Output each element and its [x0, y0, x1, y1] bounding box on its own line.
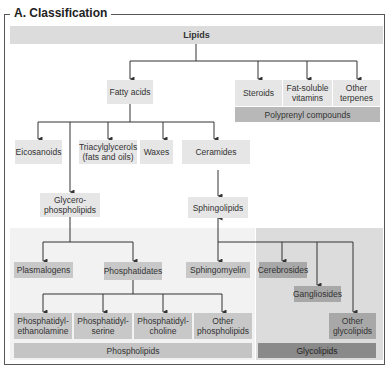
node-sphingolipids: Sphingolipids	[188, 197, 248, 218]
node-other-phospholipids: Other phospholipids	[194, 313, 252, 339]
node-gangliosides: Gangliosides	[294, 286, 341, 302]
node-phosphatidyl-ethanolamine: Phosphatidyl-ethanolamine	[14, 313, 72, 339]
node-other-glycolipids: Other glycolipids	[329, 313, 376, 339]
node-eicosanoids: Eicosanoids	[15, 140, 62, 164]
node-lipids: Lipids	[10, 26, 383, 44]
node-phospholipids: Phospholipids	[14, 343, 252, 358]
node-polyprenyl-compounds: Polyprenyl compounds	[235, 107, 380, 122]
node-cerebrosides: Cerebrosides	[259, 262, 307, 278]
node-waxes: Waxes	[140, 140, 173, 164]
node-phosphatidyl-serine: Phosphatidyl-serine	[74, 313, 132, 339]
node-steroids: Steroids	[235, 80, 282, 106]
node-ceramides: Ceramides	[182, 140, 250, 164]
node-triacylglycerols: Triacylglycerols (fats and oils)	[79, 140, 137, 164]
node-other-terpenes: Other terpenes	[333, 80, 380, 106]
node-plasmalogens: Plasmalogens	[14, 262, 73, 278]
node-glycolipids: Glycolipids	[258, 343, 376, 358]
node-sphingomyelin: Sphingomyelin	[186, 262, 250, 278]
node-fatty-acids: Fatty acids	[107, 80, 153, 104]
node-phosphatidyl-choline: Phosphatidyl-choline	[134, 313, 192, 339]
node-glycerophospholipids: Glycero-phospholipids	[40, 193, 100, 217]
node-phosphatidates: Phosphatidates	[104, 262, 162, 280]
node-fat-soluble-vitamins: Fat-soluble vitamins	[283, 80, 332, 106]
